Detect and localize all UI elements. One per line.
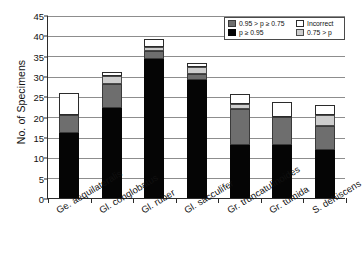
bar-segment xyxy=(230,145,250,198)
legend-swatch-icon xyxy=(228,29,236,36)
x-axis-tick xyxy=(133,198,134,203)
bar-segment xyxy=(230,94,250,105)
y-axis-title: No. of Specimens xyxy=(15,42,27,162)
x-axis-tick xyxy=(218,198,219,203)
y-axis-tick-label: 15 xyxy=(33,133,44,144)
x-axis-tick xyxy=(346,198,347,203)
chart-legend: 0.95 > p ≥ 0.75Incorrectp ≥ 0.950.75 > p xyxy=(224,17,345,40)
bar-segment xyxy=(315,126,335,149)
legend-item: p ≥ 0.95 xyxy=(228,29,292,36)
legend-label: 0.75 > p xyxy=(307,29,332,36)
y-axis-tick xyxy=(44,158,48,159)
y-axis-tick-label: 5 xyxy=(39,173,44,184)
y-axis-tick xyxy=(44,178,48,179)
bar-segment xyxy=(315,150,335,198)
y-axis-tick-label: 0 xyxy=(39,194,44,205)
bar-segment xyxy=(144,39,164,46)
y-axis-tick xyxy=(44,138,48,139)
bar-segment xyxy=(315,105,335,115)
y-axis-tick xyxy=(44,36,48,37)
y-axis-tick xyxy=(44,56,48,57)
y-axis-tick-label: 35 xyxy=(33,51,44,62)
bar-7 xyxy=(315,105,335,198)
legend-label: 0.95 > p ≥ 0.75 xyxy=(239,20,285,27)
legend-swatch-icon xyxy=(296,20,304,27)
bar-segment xyxy=(187,80,207,198)
legend-swatch-icon xyxy=(296,29,304,36)
y-axis-tick-label: 45 xyxy=(33,11,44,22)
bar-segment xyxy=(230,109,250,146)
x-axis-tick xyxy=(176,198,177,203)
bar-4 xyxy=(187,63,207,198)
grid-line xyxy=(48,56,345,57)
bar-segment xyxy=(315,115,335,126)
bar-segment xyxy=(59,133,79,198)
y-axis-tick-label: 25 xyxy=(33,92,44,103)
y-axis-tick xyxy=(44,16,48,17)
x-axis-tick xyxy=(91,198,92,203)
bar-segment xyxy=(272,117,292,145)
bar-segment xyxy=(59,93,79,116)
y-axis-tick-label: 40 xyxy=(33,31,44,42)
legend-label: p ≥ 0.95 xyxy=(239,29,264,36)
legend-item: 0.75 > p xyxy=(296,29,341,36)
x-axis-tick xyxy=(303,198,304,203)
bar-segment xyxy=(102,76,122,84)
x-axis-tick xyxy=(261,198,262,203)
legend-swatch-icon xyxy=(228,20,236,27)
y-axis-tick xyxy=(44,97,48,98)
bar-segment xyxy=(102,84,122,108)
bar-1 xyxy=(59,93,79,198)
legend-item: Incorrect xyxy=(296,20,341,27)
y-axis-tick-label: 30 xyxy=(33,72,44,83)
bar-segment xyxy=(59,115,79,132)
legend-item: 0.95 > p ≥ 0.75 xyxy=(228,20,292,27)
y-axis-tick-label: 20 xyxy=(33,112,44,123)
y-axis-tick xyxy=(44,77,48,78)
y-axis-tick xyxy=(44,117,48,118)
legend-label: Incorrect xyxy=(307,20,333,27)
x-axis-tick xyxy=(48,198,49,203)
bar-segment xyxy=(144,51,164,59)
bar-segment xyxy=(272,102,292,117)
y-axis-tick-label: 10 xyxy=(33,153,44,164)
